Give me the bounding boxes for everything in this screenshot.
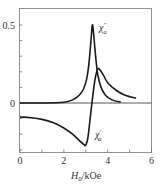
curves xyxy=(20,25,136,146)
chi-double-prime-label: χ″a xyxy=(98,21,107,36)
chart: 0246 00.5 χ″aχ′a H0/kOe xyxy=(0,0,162,191)
y-tick-label: 0 xyxy=(10,98,15,109)
curve-labels: χ″aχ′a xyxy=(94,21,107,143)
chi-prime-curve xyxy=(20,69,136,146)
chi-double-prime-curve xyxy=(20,25,121,103)
x-tick-label: 2 xyxy=(61,155,66,166)
x-axis-ticks: 0246 xyxy=(18,150,155,167)
x-axis-title: H0/kOe xyxy=(70,170,102,183)
x-tick-label: 6 xyxy=(149,155,154,166)
x-tick-label: 4 xyxy=(105,155,110,166)
chi-prime-label: χ′a xyxy=(94,128,102,143)
x-tick-label: 0 xyxy=(18,155,23,166)
y-tick-label: 0.5 xyxy=(3,20,16,31)
